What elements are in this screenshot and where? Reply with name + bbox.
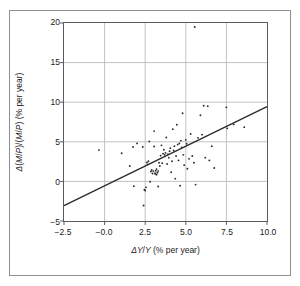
y-tick-label: −5 [26, 217, 60, 227]
y-axis-tick-labels: −505101520 [22, 22, 60, 222]
x-tick-label: 7.5 [207, 227, 247, 237]
x-axis-title: ΔY/Y (% per year) [63, 245, 268, 255]
figure-container: Δ(M/P)/(M/P) (% per year) −505101520 −2.… [0, 0, 300, 286]
y-tick-label: 0 [26, 177, 60, 187]
y-tick-label: 15 [26, 57, 60, 67]
x-tick-label: 2.5 [125, 227, 165, 237]
plot-area [63, 22, 268, 222]
axis-ticks [64, 23, 267, 221]
x-tick-label: −2.5 [43, 227, 83, 237]
y-tick-label: 20 [26, 17, 60, 27]
x-axis-tick-labels: −2.5−0.02.55.07.510.0 [63, 227, 268, 241]
y-tick-label: 5 [26, 137, 60, 147]
x-tick-label: 5.0 [166, 227, 206, 237]
x-tick-label: 10.0 [248, 227, 288, 237]
y-tick-label: 10 [26, 97, 60, 107]
x-tick-label: −0.0 [84, 227, 124, 237]
